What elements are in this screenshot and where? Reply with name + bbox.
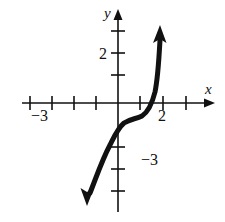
curve-arrowhead-down-icon (81, 188, 95, 206)
cubic-curve (90, 40, 160, 193)
x-tick-label-neg3: −3 (31, 108, 48, 124)
x-axis-arrowhead-icon (204, 99, 215, 108)
y-tick-label-2: 2 (99, 46, 107, 62)
x-axis-label: x (205, 82, 212, 97)
curve-group (81, 25, 167, 206)
graph-figure: x y −3 2 2 −3 (0, 0, 225, 222)
y-axis (111, 9, 125, 212)
y-tick-label-neg3: −3 (141, 152, 158, 168)
y-axis-label: y (104, 6, 111, 21)
x-tick-label-2: 2 (158, 108, 166, 124)
y-axis-arrowhead-icon (114, 9, 123, 20)
